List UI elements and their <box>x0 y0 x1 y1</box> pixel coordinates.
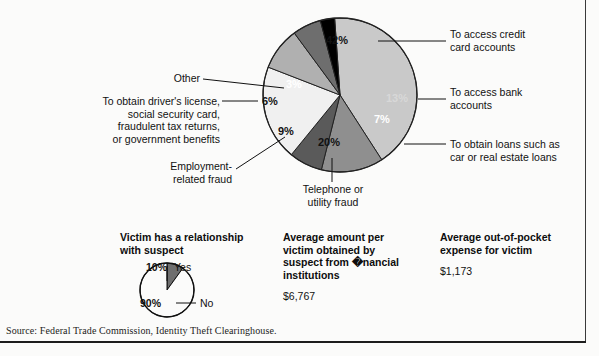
stat-amount-title: Average amount per victim obtained by su… <box>283 231 431 281</box>
chart-page: 42% 13% 7% 20% 9% 6% 3% To access credit… <box>0 0 599 356</box>
stat-amount: Average amount per victim obtained by su… <box>283 231 431 303</box>
stat-expense-value: $1,173 <box>440 265 590 278</box>
page-frame-bottom-rule <box>0 341 586 343</box>
page-frame-right-rule <box>585 0 586 342</box>
source-note: Source: Federal Trade Commission, Identi… <box>6 325 277 336</box>
relationship-mini-pie <box>0 0 599 356</box>
stat-expense: Average out-of-pocket expense for victim… <box>440 231 590 278</box>
mini-pie-yes-label: Yes <box>174 261 191 273</box>
stat-amount-value: $6,767 <box>283 290 431 303</box>
mini-pie-yes-pct: 10% <box>146 261 167 273</box>
mini-pie-no-pct: 90% <box>140 297 161 309</box>
stat-expense-title: Average out-of-pocket expense for victim <box>440 231 590 256</box>
mini-pie-no-label: No <box>200 297 213 309</box>
